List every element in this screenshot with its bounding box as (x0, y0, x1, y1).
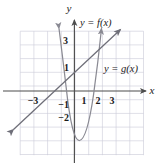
x-tick-label-2: 2 (96, 95, 101, 106)
y-tick-label-1: 1 (64, 62, 69, 73)
grid-lines (20, 31, 143, 155)
curve-f-label: y = f(x) (79, 17, 112, 29)
y-tick-label-neg2: −2 (58, 112, 69, 123)
x-tick-label-neg3: −3 (28, 95, 39, 106)
curve-g-label: y = g(x) (103, 63, 138, 75)
graph-figure: y x 3 1 −1 −2 −3 1 2 3 y = f(x) y = g(x) (0, 0, 157, 164)
coordinate-plane-svg: y x 3 1 −1 −2 −3 1 2 3 y = f(x) y = g(x) (0, 0, 157, 164)
y-tick-label-3: 3 (63, 35, 68, 46)
y-tick-label-neg1: −1 (58, 99, 69, 110)
x-axis-label: x (149, 84, 155, 96)
x-tick-label-3: 3 (110, 95, 115, 106)
y-axis-label: y (66, 2, 72, 14)
axis-lines (3, 20, 146, 163)
x-tick-label-1: 1 (82, 95, 87, 106)
